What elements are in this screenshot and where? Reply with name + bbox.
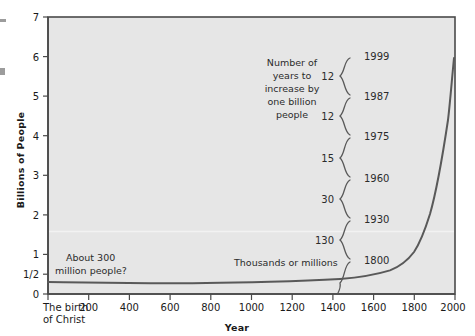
y-tick-label-6: 6: [33, 52, 39, 63]
x-tick-label-600: 600: [161, 302, 180, 313]
y-tick-label-2: 2: [33, 210, 39, 221]
annotation-prehistory: Thousands or millions: [233, 257, 338, 268]
caption-line-3: increase by: [265, 83, 320, 94]
caption-line-4: one billion: [267, 96, 316, 107]
milestone-year-1999: 1999: [364, 51, 389, 62]
page-edge-artifact-top: [0, 19, 6, 22]
x-tick-label-1400: 1400: [320, 302, 345, 313]
annotation-plateau-line2: million people?: [55, 265, 127, 276]
caption-line-5: people: [276, 109, 308, 120]
annotation-plateau-line1: About 300: [66, 252, 115, 263]
x-tick-label-1800: 1800: [402, 302, 427, 313]
y-axis-title: Billions of People: [15, 112, 26, 209]
x-tick-label-1000: 1000: [239, 302, 264, 313]
x-tick-label-2000: 2000: [440, 302, 465, 313]
y-tick-label-0: 0: [33, 289, 39, 300]
page-edge-artifact-mid: [0, 68, 5, 75]
gap-label-12b: 12: [321, 111, 334, 122]
x-tick-label-1200: 1200: [279, 302, 304, 313]
milestone-year-1800: 1800: [364, 255, 389, 266]
gap-label-130: 130: [315, 235, 334, 246]
x-tick-label-origin-line2: of Christ: [43, 314, 85, 325]
x-tick-label-1600: 1600: [361, 302, 386, 313]
y-tick-label-5: 5: [33, 91, 39, 102]
milestone-year-1975: 1975: [364, 131, 389, 142]
y-tick-label-7: 7: [33, 12, 39, 23]
x-axis-title: Year: [224, 322, 249, 333]
y-tick-label-4: 4: [33, 131, 39, 142]
x-tick-label-200: 200: [79, 302, 98, 313]
gap-label-12a: 12: [321, 71, 334, 82]
y-tick-label-1: 1: [33, 249, 39, 260]
gap-label-15: 15: [321, 153, 334, 164]
population-growth-chart: 7 6 5 4 3 2 1 1/2 0 The birth of Christ …: [0, 0, 475, 336]
milestone-year-1987: 1987: [364, 91, 389, 102]
x-tick-label-400: 400: [120, 302, 139, 313]
milestone-year-1930: 1930: [364, 214, 389, 225]
y-tick-label-3: 3: [33, 170, 39, 181]
caption-line-2: years to: [273, 70, 312, 81]
gap-label-30: 30: [321, 194, 334, 205]
x-tick-label-800: 800: [201, 302, 220, 313]
y-tick-label-half: 1/2: [23, 269, 39, 280]
caption-line-1: Number of: [267, 57, 318, 68]
chart-canvas: 7 6 5 4 3 2 1 1/2 0 The birth of Christ …: [0, 0, 475, 336]
milestone-year-1960: 1960: [364, 173, 389, 184]
